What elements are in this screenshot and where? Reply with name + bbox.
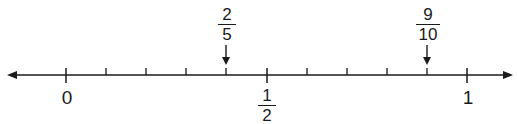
number-line-diagram: 0 1 2 1 2 5 9 10 xyxy=(0,0,517,124)
marker-two-fifths-numerator: 2 xyxy=(220,6,233,23)
marker-arrow-nine-tenths-icon xyxy=(423,45,431,65)
marker-arrow-two-fifths-icon xyxy=(222,45,230,65)
label-zero: 0 xyxy=(62,88,73,107)
label-one-half: 1 2 xyxy=(258,87,276,124)
label-one-half-numerator: 1 xyxy=(260,87,273,104)
marker-two-fifths-denominator: 5 xyxy=(220,26,233,43)
right-arrowhead-icon xyxy=(503,71,513,79)
label-one-half-denominator: 2 xyxy=(260,107,273,124)
marker-two-fifths: 2 5 xyxy=(218,6,236,43)
marker-nine-tenths-numerator: 9 xyxy=(421,6,434,23)
label-one: 1 xyxy=(463,88,474,107)
marker-nine-tenths: 9 10 xyxy=(416,6,440,43)
marker-nine-tenths-denominator: 10 xyxy=(417,26,440,43)
left-arrowhead-icon xyxy=(7,71,17,79)
